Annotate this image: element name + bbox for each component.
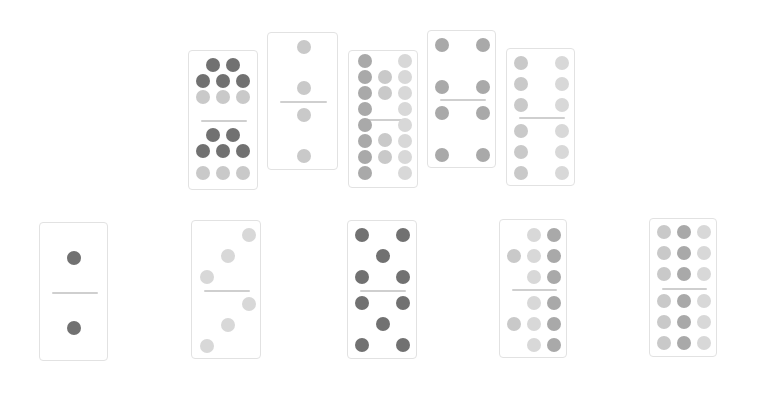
pip-dot-icon [677, 336, 691, 350]
pip-dot-icon [547, 228, 561, 242]
pip-dot-icon [196, 74, 210, 88]
pip-dot-icon [398, 118, 412, 132]
pip-dot-icon [396, 296, 410, 310]
pip-dot-icon [677, 225, 691, 239]
pip-dot-icon [657, 336, 671, 350]
pip-dot-icon [677, 246, 691, 260]
pip-dot-icon [297, 149, 311, 163]
domino-tile-top-5[interactable]: 6|6 [506, 48, 575, 186]
pip-dot-icon [398, 166, 412, 180]
pip-dot-icon [226, 128, 240, 142]
domino-tile-bottom-5[interactable]: 9|9 [649, 218, 717, 357]
domino-divider [280, 101, 327, 103]
domino-tile-bottom-3[interactable]: 5|5 [347, 220, 417, 359]
pip-dot-icon [677, 315, 691, 329]
pip-dot-icon [527, 317, 541, 331]
pip-dot-icon [398, 70, 412, 84]
pip-dot-icon [398, 54, 412, 68]
pip-dot-icon [476, 106, 490, 120]
domino-divider [204, 290, 250, 292]
pip-dot-icon [378, 70, 392, 84]
pip-dot-icon [657, 294, 671, 308]
pip-dot-icon [358, 166, 372, 180]
pip-dot-icon [378, 133, 392, 147]
pip-dot-icon [555, 98, 569, 112]
domino-tile-top-3[interactable]: 10|10 [348, 50, 418, 188]
pip-dot-icon [514, 124, 528, 138]
pip-dot-icon [196, 144, 210, 158]
pip-dot-icon [358, 70, 372, 84]
pip-dot-icon [358, 150, 372, 164]
pip-dot-icon [221, 249, 235, 263]
pip-dot-icon [196, 90, 210, 104]
pip-dot-icon [657, 315, 671, 329]
pip-dot-icon [216, 90, 230, 104]
pip-dot-icon [527, 338, 541, 352]
pip-dot-icon [216, 166, 230, 180]
pip-dot-icon [376, 249, 390, 263]
domino-tile-bottom-2[interactable]: 3|3 [191, 220, 261, 359]
pip-dot-icon [398, 150, 412, 164]
pip-dot-icon [697, 336, 711, 350]
pip-dot-icon [358, 134, 372, 148]
pip-dot-icon [657, 267, 671, 281]
pip-dot-icon [200, 339, 214, 353]
pip-dot-icon [216, 144, 230, 158]
domino-tile-bottom-4[interactable]: 7|7 [499, 219, 567, 358]
pip-dot-icon [555, 124, 569, 138]
pip-dot-icon [206, 128, 220, 142]
pip-dot-icon [236, 144, 250, 158]
pip-dot-icon [358, 102, 372, 116]
pip-dot-icon [514, 56, 528, 70]
pip-dot-icon [355, 228, 369, 242]
pip-dot-icon [355, 270, 369, 284]
pip-dot-icon [398, 134, 412, 148]
pip-dot-icon [242, 228, 256, 242]
pip-dot-icon [476, 80, 490, 94]
pip-dot-icon [378, 86, 392, 100]
pip-dot-icon [297, 40, 311, 54]
pip-dot-icon [547, 338, 561, 352]
pip-dot-icon [398, 86, 412, 100]
pip-dot-icon [435, 148, 449, 162]
pip-dot-icon [514, 77, 528, 91]
pip-dot-icon [476, 38, 490, 52]
pip-dot-icon [697, 225, 711, 239]
pip-dot-icon [547, 296, 561, 310]
pip-dot-icon [527, 249, 541, 263]
pip-dot-icon [697, 246, 711, 260]
pip-dot-icon [358, 86, 372, 100]
pip-dot-icon [396, 270, 410, 284]
domino-tile-bottom-1[interactable]: 1|1 [39, 222, 108, 361]
pip-dot-icon [514, 98, 528, 112]
pip-dot-icon [355, 338, 369, 352]
pip-dot-icon [657, 225, 671, 239]
domino-divider [519, 117, 565, 119]
pip-dot-icon [196, 166, 210, 180]
pip-dot-icon [236, 90, 250, 104]
pip-dot-icon [657, 246, 671, 260]
pip-dot-icon [555, 145, 569, 159]
pip-dot-icon [507, 249, 521, 263]
pip-dot-icon [378, 150, 392, 164]
domino-tile-top-2[interactable]: 2|2 [267, 32, 338, 170]
pip-dot-icon [358, 54, 372, 68]
pip-dot-icon [677, 294, 691, 308]
domino-tile-top-4[interactable]: 4|4 [427, 30, 496, 168]
pip-dot-icon [555, 77, 569, 91]
pip-dot-icon [396, 228, 410, 242]
pip-dot-icon [514, 145, 528, 159]
domino-divider [360, 290, 406, 292]
pip-dot-icon [555, 56, 569, 70]
pip-dot-icon [527, 296, 541, 310]
pip-dot-icon [236, 166, 250, 180]
pip-dot-icon [697, 294, 711, 308]
pip-dot-icon [555, 166, 569, 180]
pip-dot-icon [358, 118, 372, 132]
domino-tile-top-1[interactable]: 8|8 [188, 50, 258, 190]
pip-dot-icon [547, 249, 561, 263]
pip-dot-icon [67, 321, 81, 335]
pip-dot-icon [396, 338, 410, 352]
domino-divider [662, 288, 707, 290]
pip-dot-icon [435, 38, 449, 52]
